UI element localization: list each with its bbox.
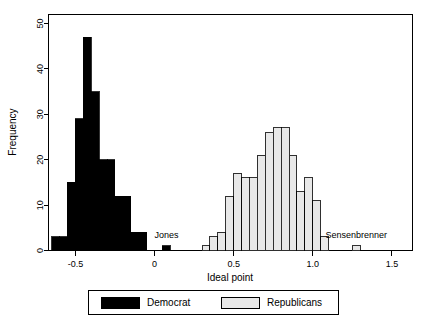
histogram-bar-democrat-7 xyxy=(107,160,115,251)
x-tick-label-0: -0.5 xyxy=(68,259,84,269)
histogram-bar-republicans-3 xyxy=(226,196,234,250)
legend-swatch-republicans xyxy=(221,297,259,308)
histogram-bar-republicans-4 xyxy=(234,173,242,250)
x-tick-label-2: 0.5 xyxy=(227,259,240,269)
histogram-bar-republicans-1 xyxy=(210,237,218,251)
histogram-bar-republicans-9 xyxy=(273,128,281,251)
y-tick-label-2: 20 xyxy=(35,155,45,165)
histogram-bar-democrat-9 xyxy=(123,196,131,250)
histogram-figure: -0.500.51.01.5 01020304050 JonesSensenbr… xyxy=(0,0,427,322)
histogram-bar-democrat-12 xyxy=(162,246,170,251)
ideal-point-histogram: -0.500.51.01.5 01020304050 JonesSensenbr… xyxy=(0,0,427,322)
histogram-bar-republicans-5 xyxy=(242,178,250,251)
histogram-bar-republicans-2 xyxy=(218,232,226,250)
x-tick-label-3: 1.0 xyxy=(307,259,320,269)
histogram-bar-democrat-11 xyxy=(139,232,147,250)
histogram-bar-republicans-16 xyxy=(352,246,360,251)
y-tick-label-5: 50 xyxy=(35,19,45,29)
histogram-bar-democrat-6 xyxy=(99,160,107,251)
histogram-bar-democrat-1 xyxy=(60,237,68,251)
legend: Democrat Republicans xyxy=(89,291,339,315)
histogram-bar-republicans-12 xyxy=(297,192,305,251)
histogram-bar-democrat-4 xyxy=(83,37,91,250)
y-tick-label-1: 10 xyxy=(35,200,45,210)
histogram-bar-republicans-10 xyxy=(281,128,289,251)
y-axis-title: Frequency xyxy=(7,108,18,155)
annotation-label-jones: Jones xyxy=(154,230,179,240)
legend-label-republicans: Republicans xyxy=(267,297,322,308)
histogram-bar-democrat-2 xyxy=(67,182,75,250)
histogram-bar-republicans-11 xyxy=(289,155,297,250)
x-tick-label-1: 0 xyxy=(152,259,157,269)
x-axis-title: Ideal point xyxy=(207,272,253,283)
histogram-bar-republicans-14 xyxy=(313,201,321,251)
histogram-bar-democrat-5 xyxy=(91,92,99,251)
histogram-bar-democrat-3 xyxy=(75,119,83,251)
histogram-bar-republicans-8 xyxy=(265,133,273,251)
legend-label-democrat: Democrat xyxy=(147,297,191,308)
legend-swatch-democrat xyxy=(101,297,139,308)
histogram-bar-democrat-8 xyxy=(115,196,123,250)
y-tick-label-0: 0 xyxy=(35,248,45,253)
histogram-bar-democrat-10 xyxy=(131,232,139,250)
y-tick-label-3: 30 xyxy=(35,109,45,119)
x-tick-label-4: 1.5 xyxy=(386,259,399,269)
histogram-bar-democrat-0 xyxy=(52,237,60,251)
y-tick-label-4: 40 xyxy=(35,64,45,74)
histogram-bar-republicans-13 xyxy=(305,178,313,251)
annotation-label-sensenbrenner: Sensenbrenner xyxy=(326,230,388,240)
histogram-bar-republicans-7 xyxy=(257,155,265,250)
histogram-bar-republicans-6 xyxy=(249,178,257,251)
histogram-bar-republicans-0 xyxy=(202,246,210,251)
